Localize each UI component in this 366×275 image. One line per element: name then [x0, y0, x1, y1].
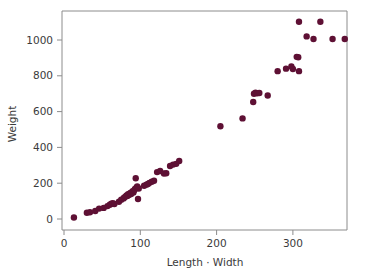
data-point — [250, 99, 256, 105]
y-tick-label: 1000 — [26, 34, 53, 46]
data-point — [342, 36, 348, 42]
data-point — [265, 92, 271, 98]
data-point — [274, 68, 280, 74]
data-point — [310, 36, 316, 42]
data-point — [151, 177, 157, 183]
data-point — [296, 19, 302, 25]
data-point — [239, 115, 245, 121]
scatter-chart-figure: 02004006008001000 0100200300 Length · Wi… — [0, 0, 366, 275]
x-tick-label: 200 — [207, 237, 227, 249]
data-point — [176, 158, 182, 164]
data-point — [317, 19, 323, 25]
chart-canvas: 02004006008001000 0100200300 Length · Wi… — [0, 0, 366, 275]
data-point — [296, 68, 302, 74]
y-tick-label: 800 — [33, 69, 53, 81]
y-axis-title: Weight — [6, 106, 18, 143]
data-point — [295, 54, 301, 60]
data-point — [71, 214, 77, 220]
y-tick-label: 400 — [33, 141, 53, 153]
chart-background — [0, 0, 366, 275]
data-point — [163, 170, 169, 176]
data-point — [217, 123, 223, 129]
data-point — [290, 66, 296, 72]
data-point — [87, 209, 93, 215]
data-point — [133, 175, 139, 181]
x-tick-label: 300 — [283, 237, 303, 249]
y-tick-label: 600 — [33, 105, 53, 117]
y-tick-label: 200 — [33, 177, 53, 189]
data-point — [303, 33, 309, 39]
data-point — [256, 90, 262, 96]
x-tick-label: 100 — [130, 237, 150, 249]
x-axis-title: Length · Width — [167, 256, 244, 268]
data-point — [329, 36, 335, 42]
data-point — [135, 196, 141, 202]
y-tick-label: 0 — [46, 213, 53, 225]
x-tick-label: 0 — [61, 237, 68, 249]
